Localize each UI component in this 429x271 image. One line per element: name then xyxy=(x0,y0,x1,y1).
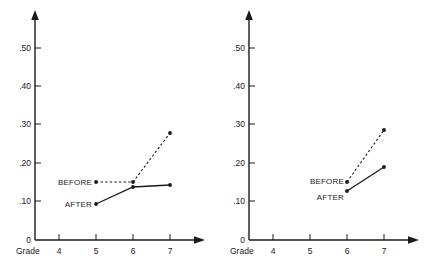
y-axis-ticks xyxy=(35,48,41,201)
y-axis xyxy=(31,10,39,240)
x-axis-name: Grade xyxy=(16,246,40,256)
y-tick-label-030: .30 xyxy=(19,119,31,129)
data-point-after-g7 xyxy=(382,165,386,169)
y-tick-label-050: .50 xyxy=(19,43,31,53)
series-before xyxy=(345,128,386,184)
y-tick-label-000: 0 xyxy=(26,235,31,245)
x-axis xyxy=(249,236,419,244)
series-label-before: BEFORE xyxy=(310,177,344,186)
x-tick-label-6: 6 xyxy=(131,246,136,256)
x-tick-label-7: 7 xyxy=(168,246,173,256)
series-label-before: BEFORE xyxy=(58,178,92,187)
x-tick-label-4: 4 xyxy=(271,246,276,256)
data-point-after-g5 xyxy=(94,202,98,206)
data-point-before-g7 xyxy=(168,131,172,135)
data-point-before-g5 xyxy=(94,180,98,184)
chart-panel-left: .50 .40 .30 .20 .10 0 4 5 6 7 Grade xyxy=(0,0,214,271)
series-label-after: AFTER xyxy=(65,200,92,209)
x-axis-name: Grade xyxy=(230,246,254,256)
y-tick-label-020: .20 xyxy=(233,158,245,168)
data-point-after-g7 xyxy=(168,183,172,187)
data-point-before-g6 xyxy=(345,180,349,184)
series-after xyxy=(94,183,172,206)
series-before xyxy=(94,131,172,184)
x-tick-label-4: 4 xyxy=(57,246,62,256)
y-axis-ticks xyxy=(249,48,255,201)
y-tick-label-040: .40 xyxy=(19,81,31,91)
y-tick-label-010: .10 xyxy=(19,196,31,206)
y-tick-label-000: 0 xyxy=(240,235,245,245)
x-tick-label-5: 5 xyxy=(94,246,99,256)
chart-panel-right: .50 .40 .30 .20 .10 0 4 5 6 7 Grade xyxy=(214,0,428,271)
x-tick-label-5: 5 xyxy=(308,246,313,256)
data-point-before-g7 xyxy=(382,128,386,132)
y-tick-label-010: .10 xyxy=(233,196,245,206)
series-after xyxy=(345,165,386,193)
y-tick-label-030: .30 xyxy=(233,119,245,129)
x-tick-label-7: 7 xyxy=(382,246,387,256)
figure-two-panel-line-charts: .50 .40 .30 .20 .10 0 4 5 6 7 Grade xyxy=(0,0,429,271)
y-tick-label-050: .50 xyxy=(233,43,245,53)
x-axis-ticks xyxy=(273,234,384,240)
y-tick-label-040: .40 xyxy=(233,81,245,91)
data-point-before-g6 xyxy=(131,180,135,184)
y-axis xyxy=(245,10,253,240)
data-point-after-g6 xyxy=(345,189,349,193)
y-tick-label-020: .20 xyxy=(19,158,31,168)
x-axis xyxy=(35,236,205,244)
data-point-after-g6 xyxy=(131,185,135,189)
x-tick-label-6: 6 xyxy=(345,246,350,256)
series-label-after: AFTER xyxy=(317,193,344,202)
x-axis-ticks xyxy=(59,234,170,240)
